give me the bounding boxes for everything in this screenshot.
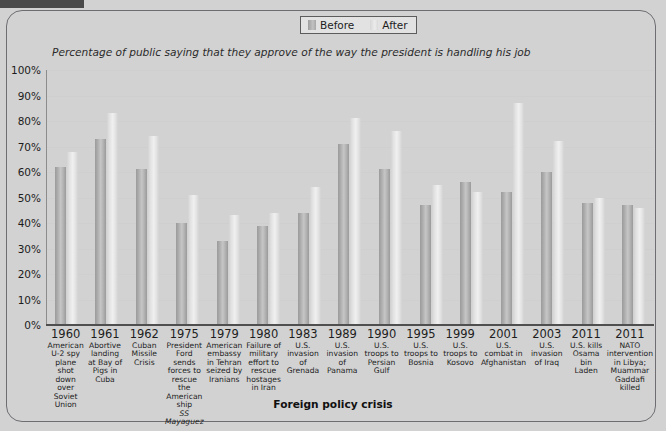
x-axis-year: 1979 [206, 328, 243, 341]
legend-swatch-before-icon [308, 20, 316, 30]
bar-group [370, 70, 411, 325]
bar-before [217, 241, 228, 325]
y-axis-tick-label: 20% [18, 268, 41, 280]
y-axis-tick-label: 40% [18, 217, 41, 229]
x-axis-description: U.S. troops to Bosnia [402, 342, 439, 368]
plot-area: 100%90%80%70%60%50%40%30%20%10%0% [46, 70, 654, 325]
x-axis-description: Cuban Missile Crisis [126, 342, 163, 368]
x-axis-description: U.S. invasion of Panama [324, 342, 361, 376]
bar-before [420, 205, 431, 325]
x-axis-year: 1989 [324, 328, 361, 341]
y-axis-tick-label: 10% [18, 294, 41, 306]
x-axis-year: 2001 [481, 328, 526, 341]
bar-before [460, 182, 471, 325]
bar-group [613, 70, 654, 325]
x-axis-description: Failure of military effort to rescue hos… [245, 342, 282, 393]
bar-after [513, 103, 524, 325]
bar-before [55, 167, 66, 325]
bar-after [67, 152, 78, 325]
x-axis-year: 2011 [607, 328, 653, 341]
bar-before [176, 223, 187, 325]
x-axis-description: American embassy in Tehran seized by Ira… [206, 342, 243, 385]
bar-group [532, 70, 573, 325]
bar-group [249, 70, 290, 325]
x-axis-year: 2011 [567, 328, 604, 341]
y-axis-tick-label: 30% [18, 243, 41, 255]
x-axis-description-italic: SS Mayaguez [165, 410, 204, 427]
x-axis-description: U.S. invasion of Grenada [284, 342, 321, 376]
legend-item-before: Before [308, 19, 354, 31]
bar-group [451, 70, 492, 325]
bar-after [472, 192, 483, 325]
chart-subtitle: Percentage of public saying that they ap… [52, 46, 531, 58]
bar-after [594, 198, 605, 326]
bar-after [553, 141, 564, 325]
legend-label-after: After [382, 19, 407, 31]
x-axis-year: 1975 [165, 328, 204, 341]
y-axis-tick-label: 100% [11, 64, 41, 76]
bar-group [573, 70, 614, 325]
bar-before [379, 169, 390, 325]
x-axis-title: Foreign policy crisis [0, 398, 666, 410]
bar-before [501, 192, 512, 325]
bar-after [350, 118, 361, 325]
bar-before [338, 144, 349, 325]
bar-before [257, 226, 268, 325]
bar-group [87, 70, 128, 325]
bar-before [136, 169, 147, 325]
bar-before [582, 203, 593, 325]
x-axis-year: 1990 [363, 328, 400, 341]
tab-strip-fragment [0, 0, 84, 8]
bar-group [492, 70, 533, 325]
x-axis-year: 1960 [47, 328, 84, 341]
x-axis-description: U.S. invasion of Iraq [528, 342, 565, 368]
x-axis-description: U.S. combat in Afghanistan [481, 342, 526, 368]
bar-after [229, 215, 240, 325]
bar-group [208, 70, 249, 325]
bar-before [298, 213, 309, 325]
bar-after [107, 113, 118, 325]
x-axis-year: 2003 [528, 328, 565, 341]
x-axis-year: 1961 [86, 328, 123, 341]
x-axis-line [46, 324, 654, 326]
x-axis-description: Abortive landing at Bay of Pigs in Cuba [86, 342, 123, 385]
legend-label-before: Before [320, 19, 354, 31]
x-axis-year: 1983 [284, 328, 321, 341]
y-axis-tick-label: 50% [18, 192, 41, 204]
y-axis-tick-label: 90% [18, 90, 41, 102]
x-axis-description: U.S. troops to Persian Gulf [363, 342, 400, 376]
y-axis-tick-label: 0% [24, 319, 41, 331]
bar-after [188, 195, 199, 325]
legend-swatch-after-icon [370, 20, 378, 30]
x-axis-description: U.S. kills Osama bin Laden [567, 342, 604, 376]
x-axis-year: 1999 [442, 328, 479, 341]
x-axis-year: 1962 [126, 328, 163, 341]
x-axis-description: U.S. troops to Kosovo [442, 342, 479, 368]
bar-group [411, 70, 452, 325]
bar-after [634, 208, 645, 325]
bar-after [269, 213, 280, 325]
bar-before [622, 205, 633, 325]
bar-group [168, 70, 209, 325]
bar-group [46, 70, 87, 325]
legend-item-after: After [370, 19, 407, 31]
bar-after [391, 131, 402, 325]
x-axis-year: 1995 [402, 328, 439, 341]
x-axis-description: NATO intervention in Libya; Muammar Gadd… [607, 342, 653, 393]
y-axis-tick-label: 80% [18, 115, 41, 127]
bar-before [541, 172, 552, 325]
bar-after [310, 187, 321, 325]
y-axis-tick-label: 70% [18, 141, 41, 153]
bar-groups [46, 70, 654, 325]
x-axis-year: 1980 [245, 328, 282, 341]
y-axis-tick-label: 60% [18, 166, 41, 178]
bar-after [148, 136, 159, 325]
bar-group [289, 70, 330, 325]
bar-after [432, 185, 443, 325]
bar-group [330, 70, 371, 325]
bar-group [127, 70, 168, 325]
bar-before [95, 139, 106, 325]
chart-legend: Before After [300, 16, 417, 34]
